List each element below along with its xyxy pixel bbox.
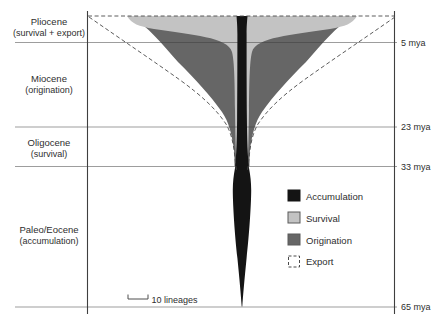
legend-label-origination: Origination <box>306 235 352 246</box>
period-label-miocene: Miocene <box>31 73 67 84</box>
legend: Accumulation Survival Origination Export <box>288 190 363 267</box>
legend-swatch-survival <box>288 212 300 223</box>
scale-bar-label: 10 lineages <box>152 295 199 305</box>
figure-canvas: Pliocene (survival + export) Miocene (or… <box>0 0 444 322</box>
legend-label-export: Export <box>306 256 334 267</box>
legend-label-accumulation: Accumulation <box>306 191 363 202</box>
legend-swatch-export <box>289 256 300 267</box>
legend-label-survival: Survival <box>306 213 340 224</box>
period-label-paleo-eocene: Paleo/Eocene <box>19 224 78 235</box>
time-label-33mya: 33 mya <box>401 162 431 172</box>
period-label-oligocene: Oligocene <box>28 137 71 148</box>
time-label-65mya: 65 mya <box>401 302 431 312</box>
time-label-5mya: 5 mya <box>401 38 426 48</box>
scale-bar: 10 lineages <box>128 295 198 305</box>
legend-swatch-accumulation <box>288 190 300 201</box>
diversity-spindle-figure: Pliocene (survival + export) Miocene (or… <box>0 0 444 322</box>
period-process-oligocene: (survival) <box>31 149 68 159</box>
time-label-23mya: 23 mya <box>401 122 431 132</box>
period-process-pliocene: (survival + export) <box>13 28 85 38</box>
period-label-pliocene: Pliocene <box>31 16 67 27</box>
legend-swatch-origination <box>288 234 300 245</box>
scale-bar-bracket <box>128 295 148 300</box>
period-process-paleo-eocene: (accumulation) <box>19 236 78 246</box>
period-process-miocene: (origination) <box>25 85 73 95</box>
